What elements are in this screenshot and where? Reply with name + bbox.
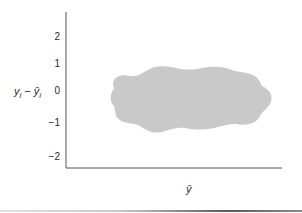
residual-cloud — [111, 66, 272, 132]
y-tick-label: 2 — [36, 31, 60, 43]
y-label-subscript: i — [39, 91, 41, 100]
y-axis-label: yi − ŷi — [14, 84, 41, 103]
y-tick-label: −1 — [36, 117, 60, 129]
y-label-minus: − — [21, 85, 34, 97]
page-edge-rule — [0, 210, 302, 212]
residual-plot: 2 1 0 −1 −2 yi − ŷi ŷ — [0, 0, 302, 213]
y-tick-label: −2 — [36, 151, 60, 163]
x-axis-label: ŷ — [186, 182, 192, 196]
y-tick-label: 1 — [36, 58, 60, 70]
